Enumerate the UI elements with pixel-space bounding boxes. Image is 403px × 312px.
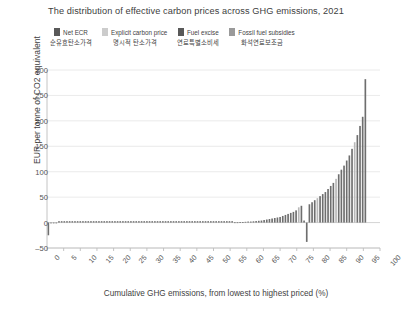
x-tick-label: 80 [320, 253, 332, 265]
x-tick-label: 75 [303, 253, 315, 265]
x-tick-label: 20 [120, 253, 132, 265]
x-tick-label: 50 [220, 253, 232, 265]
x-tick-label: 65 [270, 253, 282, 265]
x-tick-label: 5 [69, 253, 78, 262]
x-tick-label: 70 [287, 253, 299, 265]
y-axis-label: EUR per tonne of CO2 equivalent [32, 0, 42, 200]
x-axis-label: Cumulative GHG emissions, from lowest to… [46, 289, 386, 298]
x-tick-label: 15 [104, 253, 116, 265]
x-tick-label: 45 [203, 253, 215, 265]
x-tick-label: 30 [154, 253, 166, 265]
x-tick-label: 100 [388, 253, 403, 268]
x-tick-label: 90 [353, 253, 365, 265]
x-tick-label: 60 [253, 253, 265, 265]
x-tick-label: 85 [337, 253, 349, 265]
x-tick-label: 0 [52, 253, 61, 262]
x-tick-label: 40 [187, 253, 199, 265]
x-tick-label: 10 [87, 253, 99, 265]
x-tick-label: 25 [137, 253, 149, 265]
x-tick-label: 55 [237, 253, 249, 265]
x-tick-label: 35 [170, 253, 182, 265]
x-tick-label: 95 [370, 253, 382, 265]
